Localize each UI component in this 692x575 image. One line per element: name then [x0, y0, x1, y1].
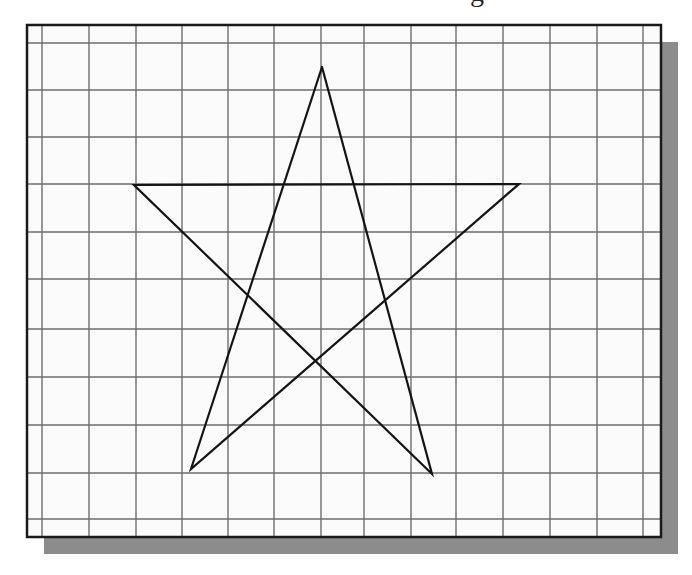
grid-paper-background [27, 25, 661, 537]
star-on-grid-diagram [0, 0, 692, 575]
